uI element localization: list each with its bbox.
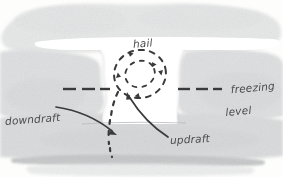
cloud-wash-patch-a bbox=[14, 6, 126, 34]
cloud-bottom-haze bbox=[27, 164, 255, 176]
label-freezing-level: freezing level bbox=[215, 70, 279, 141]
label-updraft: updraft bbox=[170, 133, 210, 146]
label-freezing-line1: freezing bbox=[230, 80, 275, 96]
cloud-wash-patch-c bbox=[5, 78, 85, 114]
label-freezing-line2: level bbox=[225, 102, 277, 117]
anvil-band bbox=[35, 37, 280, 50]
label-hail: hail bbox=[133, 37, 153, 49]
cloud-wash-patch-b bbox=[138, 5, 262, 31]
thunderstorm-hail-diagram: hail freezing level downdraft updraft bbox=[0, 0, 283, 177]
